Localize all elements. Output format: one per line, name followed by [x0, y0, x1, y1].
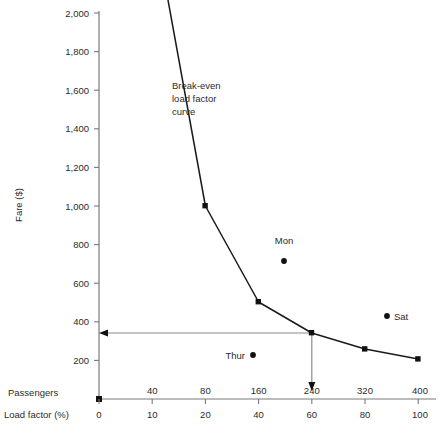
scatter-label-sat: Sat — [394, 311, 409, 322]
x-tick-label-load-factor-100: 100 — [412, 409, 428, 420]
x-tick-label-passengers-320: 320 — [357, 385, 373, 396]
break-even-curve-annotation: Break-even load factor curve — [172, 80, 221, 117]
x-tick-label-passengers-160: 160 — [251, 385, 267, 396]
x-axis-title-passengers: Passengers — [8, 387, 58, 398]
chart-canvas: 2,000 1,800 1,600 1,400 1,200 1,000 800 … — [0, 0, 446, 433]
y-axis-title: Fare ($) — [13, 188, 24, 222]
break-even-curve — [168, 0, 418, 359]
x-tick-label-passengers-400: 400 — [412, 385, 428, 396]
x-tick-labels-passengers: 40 80 160 240 320 400 — [147, 385, 428, 396]
x-tick-label-passengers-80: 80 — [200, 385, 211, 396]
x-axis-title-load-factor: Load factor (%) — [4, 409, 69, 420]
y-tick-label-1000: 1,000 — [65, 201, 89, 212]
curve-annotation-line-3: curve — [172, 106, 195, 117]
y-tick-label-1200: 1,200 — [65, 162, 89, 173]
scatter-point-mon: Mon — [275, 235, 293, 264]
break-even-load-factor-chart: 2,000 1,800 1,600 1,400 1,200 1,000 800 … — [0, 0, 446, 433]
x-tick-labels-load-factor: 0 10 20 40 60 80 100 — [96, 409, 428, 420]
curve-marker-320 — [362, 346, 367, 351]
x-tick-label-load-factor-20: 20 — [200, 409, 211, 420]
scatter-dot-sat — [384, 313, 390, 319]
y-tick-label-2000: 2,000 — [65, 8, 89, 19]
curve-marker-400 — [415, 356, 420, 361]
scatter-label-thur: Thur — [225, 350, 245, 361]
guide-arrows-group — [99, 330, 315, 392]
x-tick-label-load-factor-80: 80 — [360, 409, 371, 420]
x-tick-label-load-factor-60: 60 — [307, 409, 318, 420]
curve-marker-160 — [256, 299, 261, 304]
curve-annotation-line-2: load factor — [172, 93, 216, 104]
scatter-point-thur: Thur — [225, 350, 255, 361]
x-tick-label-passengers-40: 40 — [147, 385, 158, 396]
horizontal-fare-arrowhead — [99, 330, 108, 337]
x-axis-ticks — [99, 399, 418, 404]
scatter-dot-mon — [281, 258, 287, 264]
y-tick-label-1600: 1,600 — [65, 85, 89, 96]
scatter-label-mon: Mon — [275, 235, 293, 246]
curve-marker-240 — [309, 330, 314, 335]
curve-annotation-line-1: Break-even — [172, 80, 221, 91]
axes-group — [96, 11, 436, 402]
y-tick-label-800: 800 — [73, 239, 89, 250]
y-axis-tick-labels: 2,000 1,800 1,600 1,400 1,200 1,000 800 … — [65, 8, 89, 366]
y-tick-label-400: 400 — [73, 316, 89, 327]
scatter-point-sat: Sat — [384, 311, 409, 322]
y-tick-label-1800: 1,800 — [65, 46, 89, 57]
scatter-dot-thur — [250, 352, 256, 358]
y-tick-label-1400: 1,400 — [65, 123, 89, 134]
x-tick-label-load-factor-10: 10 — [147, 409, 158, 420]
y-tick-label-600: 600 — [73, 278, 89, 289]
x-tick-label-load-factor-0: 0 — [96, 409, 101, 420]
curve-marker-80 — [202, 203, 207, 208]
x-tick-label-load-factor-40: 40 — [253, 409, 264, 420]
y-tick-label-200: 200 — [73, 355, 89, 366]
y-axis-ticks — [94, 13, 99, 360]
